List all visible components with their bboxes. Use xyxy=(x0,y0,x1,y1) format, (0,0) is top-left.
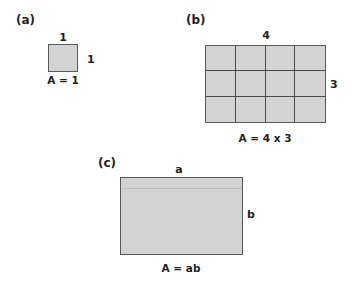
grid-cell xyxy=(295,97,325,122)
grid-cell xyxy=(266,71,296,96)
panel-a-formula: A = 1 xyxy=(47,74,79,87)
grid-cell xyxy=(206,97,236,122)
rectangle-ab xyxy=(120,177,243,255)
panel-c-formula: A = ab xyxy=(162,262,201,275)
grid-cell xyxy=(236,46,266,71)
panel-c-top-dimension: a xyxy=(175,163,182,176)
grid-cell xyxy=(295,71,325,96)
panel-b-formula: A = 4 x 3 xyxy=(239,132,292,145)
grid-cell xyxy=(206,71,236,96)
faint-guide-line xyxy=(121,188,242,189)
panel-b-top-dimension: 4 xyxy=(262,29,270,42)
grid-cell xyxy=(266,97,296,122)
grid-4x3 xyxy=(205,45,326,123)
grid-cell xyxy=(236,97,266,122)
panel-b-side-dimension: 3 xyxy=(330,78,338,91)
grid-cell xyxy=(295,46,325,71)
unit-square xyxy=(48,44,78,72)
grid-cell xyxy=(236,71,266,96)
panel-b-label: (b) xyxy=(186,14,206,27)
grid-cell xyxy=(266,46,296,71)
panel-a-top-dimension: 1 xyxy=(59,31,67,44)
panel-a-label: (a) xyxy=(16,14,35,27)
panel-c-side-dimension: b xyxy=(247,208,255,221)
panel-c-label: (c) xyxy=(98,157,116,170)
panel-a-side-dimension: 1 xyxy=(87,53,95,66)
grid-cell xyxy=(206,46,236,71)
